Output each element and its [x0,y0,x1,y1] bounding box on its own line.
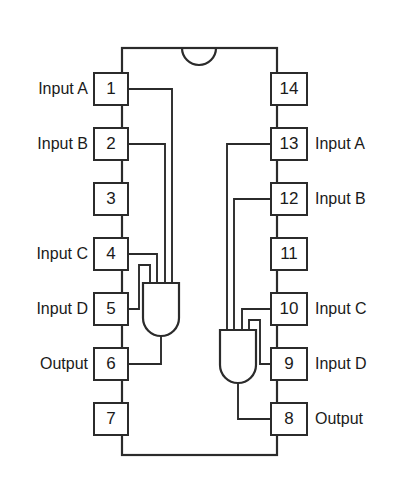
pin-label-13: Input A [315,136,408,152]
ic-pinout-diagram: 1 2 3 4 5 6 7 14 13 12 11 10 9 8 [0,0,408,485]
pin-number-14: 14 [280,79,299,98]
pin-number-2: 2 [106,134,115,153]
pin-number-4: 4 [106,244,115,263]
pin-label-5: Input D [0,301,88,317]
pin-label-10: Input C [315,301,408,317]
pin-number-7: 7 [106,409,115,428]
pin-label-1: Input A [0,81,88,97]
pin-label-4: Input C [0,246,88,262]
pin-number-9: 9 [284,354,293,373]
pin-label-8: Output [315,411,408,427]
pin-label-6: Output [0,356,88,372]
pin-number-3: 3 [106,189,115,208]
pin-number-6: 6 [106,354,115,373]
pin-label-12: Input B [315,191,408,207]
pin-number-13: 13 [280,134,299,153]
pin-label-9: Input D [315,356,408,372]
and-gate-2 [220,330,256,383]
pin-number-5: 5 [106,299,115,318]
chip-body [122,48,277,455]
pin-number-11: 11 [280,244,298,263]
pin-number-1: 1 [106,79,115,98]
pin-number-10: 10 [280,299,299,318]
pin-number-8: 8 [284,409,293,428]
pin-number-12: 12 [280,189,299,208]
pin-label-2: Input B [0,136,88,152]
and-gate-1 [143,283,179,336]
